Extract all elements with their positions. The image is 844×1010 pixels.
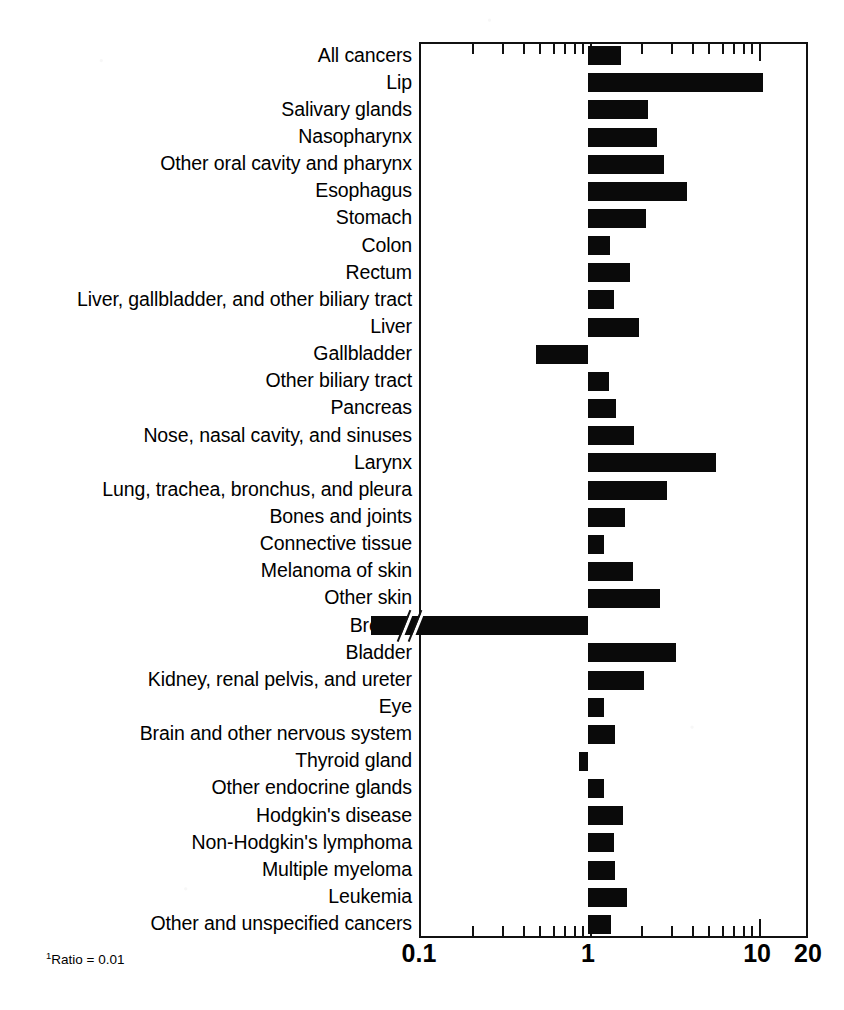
bar bbox=[588, 209, 646, 228]
bar bbox=[588, 725, 615, 744]
bar bbox=[588, 155, 664, 174]
bar bbox=[588, 589, 660, 608]
bar bbox=[588, 290, 614, 309]
x-tick-label: 0.1 bbox=[402, 941, 437, 966]
footnote-text: Ratio = 0.01 bbox=[51, 952, 124, 967]
bar bbox=[588, 263, 630, 282]
bar bbox=[588, 698, 604, 717]
bar bbox=[588, 671, 644, 690]
x-axis-tick-labels: 0.111020 bbox=[0, 941, 844, 975]
bar bbox=[588, 861, 615, 880]
x-tick-label: 20 bbox=[794, 941, 822, 966]
bar bbox=[588, 128, 657, 147]
bar bbox=[588, 453, 716, 472]
bar bbox=[536, 345, 588, 364]
x-tick-label: 1 bbox=[581, 941, 595, 966]
bar bbox=[588, 46, 621, 65]
bar bbox=[588, 182, 687, 201]
bar bbox=[588, 643, 676, 662]
bar bbox=[588, 806, 623, 825]
bar bbox=[588, 915, 611, 934]
bar bbox=[588, 481, 667, 500]
axis-break-marker bbox=[399, 609, 433, 643]
bar bbox=[588, 399, 616, 418]
footnote: 1Ratio = 0.01 bbox=[46, 952, 124, 967]
bar bbox=[588, 508, 625, 527]
bar bbox=[588, 236, 610, 255]
bar bbox=[588, 535, 604, 554]
bar bbox=[588, 779, 604, 798]
bars-layer bbox=[0, 42, 844, 938]
bar bbox=[588, 100, 648, 119]
bar bbox=[588, 73, 763, 92]
figure-bar-chart-cancer-ratios: All cancersLipSalivary glandsNasopharynx… bbox=[0, 0, 844, 1010]
bar bbox=[588, 833, 614, 852]
bar bbox=[588, 318, 639, 337]
bar bbox=[588, 562, 633, 581]
x-tick-label: 10 bbox=[743, 941, 771, 966]
bar bbox=[588, 888, 627, 907]
bar bbox=[588, 372, 609, 391]
bar bbox=[579, 752, 588, 771]
bar bbox=[588, 426, 634, 445]
